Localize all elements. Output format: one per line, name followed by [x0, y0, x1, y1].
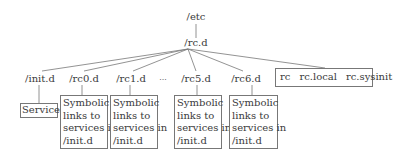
symlink-line: links to — [113, 110, 155, 123]
services-label: Services — [22, 104, 56, 116]
symlink-line: Symbolic — [63, 97, 105, 110]
rc1-symlinks-box: Symbolic links to services in /init.d — [110, 95, 158, 149]
symlink-line: services in — [177, 122, 219, 135]
ellipsis-node: ... — [159, 72, 167, 84]
symlink-line: links to — [232, 110, 275, 123]
symlink-line: services in — [63, 122, 105, 135]
rc0d-node: /rc0.d — [69, 73, 99, 85]
initd-node: /init.d — [25, 73, 55, 85]
rc0-symlinks-box: Symbolic links to services in /init.d — [60, 95, 108, 149]
rc-files-box: rcrc.localrc.sysinit — [275, 68, 373, 87]
symlink-line: /init.d — [113, 135, 155, 148]
rc-local-file: rc.local — [299, 71, 337, 82]
rc5d-node: /rc5.d — [181, 73, 211, 85]
symlink-line: /init.d — [177, 135, 219, 148]
symlink-line: links to — [63, 110, 105, 123]
symlink-line: services in — [232, 122, 275, 135]
rcd-node: /rc.d — [184, 37, 207, 49]
rc5-symlinks-box: Symbolic links to services in /init.d — [174, 95, 222, 149]
symlink-line: Symbolic — [113, 97, 155, 110]
etc-node: /etc — [187, 11, 206, 23]
symlink-line: services in — [113, 122, 155, 135]
rc6d-node: /rc6.d — [231, 73, 261, 85]
symlink-line: links to — [177, 110, 219, 123]
services-box: Services — [20, 103, 58, 118]
symlink-line: Symbolic — [177, 97, 219, 110]
rc-sysinit-file: rc.sysinit — [346, 71, 392, 82]
symlink-line: Symbolic — [232, 97, 275, 110]
rc1d-node: /rc1.d — [116, 73, 146, 85]
rc-directory-tree-diagram: /etc /rc.d /init.d /rc0.d /rc1.d ... /rc… — [0, 0, 395, 162]
rc-file: rc — [280, 71, 290, 82]
symlink-line: /init.d — [232, 135, 275, 148]
symlink-line: /init.d — [63, 135, 105, 148]
rc6-symlinks-box: Symbolic links to services in /init.d — [229, 95, 278, 149]
